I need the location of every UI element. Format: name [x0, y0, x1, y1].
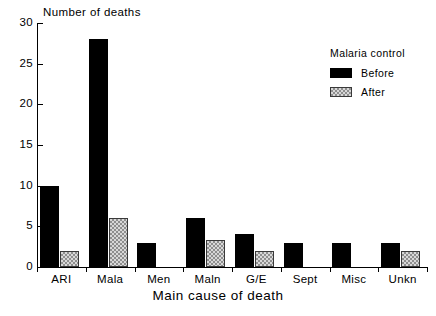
y-tick-mark	[38, 104, 43, 105]
bar-before	[186, 218, 205, 267]
y-axis-title: Number of deaths	[43, 6, 141, 18]
y-tick: 15	[37, 145, 43, 146]
chart-figure: Number of deaths 051015202530 ARIMalaMen…	[0, 0, 436, 316]
y-tick-label: 5	[26, 219, 33, 231]
x-tick-label: Maln	[195, 273, 221, 285]
bar-before	[40, 186, 59, 267]
legend-item-after: After	[330, 86, 405, 98]
y-tick-mark	[38, 23, 43, 24]
x-tick-mark	[330, 267, 331, 272]
y-tick-label: 20	[20, 97, 33, 109]
y-tick-label: 0	[26, 260, 33, 272]
y-tick: 25	[37, 64, 43, 65]
x-tick-mark	[427, 267, 428, 272]
bar-after	[109, 218, 128, 267]
bar-before	[284, 243, 303, 267]
legend-entries: BeforeAfter	[330, 67, 405, 98]
x-tick-label: ARI	[51, 273, 71, 285]
x-tick-label: Mala	[97, 273, 123, 285]
legend-swatch-before	[330, 68, 352, 78]
y-tick-mark	[38, 267, 43, 268]
bar-before	[89, 39, 108, 267]
bar-before	[381, 243, 400, 267]
y-tick-mark	[38, 145, 43, 146]
x-tick-label: Sept	[293, 273, 318, 285]
x-tick-mark	[232, 267, 233, 272]
x-tick-mark	[281, 267, 282, 272]
x-tick-mark	[135, 267, 136, 272]
y-tick-label: 10	[20, 179, 33, 191]
x-tick-mark	[183, 267, 184, 272]
x-tick-label: Unkn	[389, 273, 417, 285]
x-tick-mark	[37, 267, 38, 272]
bar-after	[255, 251, 274, 267]
legend-label: Before	[361, 67, 394, 79]
x-tick-label: Men	[147, 273, 170, 285]
y-tick-label: 15	[20, 138, 33, 150]
bar-after	[60, 251, 79, 267]
x-tick-mark	[86, 267, 87, 272]
y-tick-label: 30	[20, 16, 33, 28]
legend-item-before: Before	[330, 67, 405, 79]
bar-before	[137, 243, 156, 267]
legend-swatch-after	[330, 87, 352, 97]
y-tick: 20	[37, 104, 43, 105]
bar-after	[401, 251, 420, 267]
y-tick-label: 25	[20, 57, 33, 69]
bar-after	[206, 240, 225, 267]
x-tick-label: G/E	[246, 273, 267, 285]
x-tick-mark	[378, 267, 379, 272]
legend-title: Malaria control	[330, 47, 405, 59]
y-tick: 30	[37, 23, 43, 24]
legend: Malaria control BeforeAfter	[330, 47, 405, 105]
y-tick-mark	[38, 64, 43, 65]
bar-before	[235, 234, 254, 267]
legend-label: After	[361, 86, 385, 98]
x-tick-label: Misc	[341, 273, 366, 285]
x-axis-title: Main cause of death	[0, 288, 436, 303]
bar-before	[332, 243, 351, 267]
